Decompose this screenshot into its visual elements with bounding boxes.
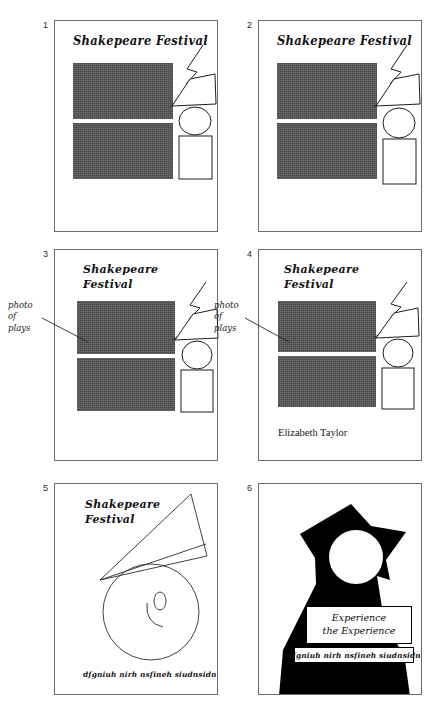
tagline: dfgniuh nirh nsfineh siudnsidn <box>287 651 420 660</box>
photo-block-bottom <box>277 123 377 179</box>
hat-icon <box>175 309 218 340</box>
photo-block-bottom <box>73 123 173 179</box>
storyboard-sheet: 1 Shakepeare Festival 2 Shakepeare Festi… <box>0 0 439 715</box>
hat-icon <box>376 74 420 106</box>
panel-6[interactable]: Experience the Experience dfgniuh nirh n… <box>258 483 422 695</box>
panel-number-1: 1 <box>43 21 48 30</box>
head-icon <box>383 339 413 367</box>
callout-label: photo of plays <box>8 300 33 334</box>
panel-3[interactable]: Shakepeare Festival <box>54 249 218 461</box>
poster-title: Shakepeare Festival <box>284 263 359 292</box>
headline-text: Experience the Experience <box>323 612 396 638</box>
head-icon <box>182 341 212 369</box>
panel-number-6: 6 <box>247 484 252 493</box>
headline-box: Experience the Experience <box>306 606 412 644</box>
actor-figure <box>167 41 222 181</box>
callout-leader-line <box>40 310 110 350</box>
hat-icon <box>376 308 419 338</box>
actor-figure <box>371 41 426 186</box>
panel-number-4: 4 <box>247 250 252 259</box>
eye-icon <box>154 592 166 610</box>
body-icon <box>382 368 414 409</box>
panel-5[interactable]: Shakepeare Festival dfgniuh nirh nsfineh… <box>54 483 218 695</box>
panel-4[interactable]: Shakepeare Festival Elizabeth Taylor <box>258 249 422 461</box>
photo-block-top <box>73 63 173 119</box>
callout-leader-line <box>243 310 313 350</box>
actor-figure <box>371 278 426 410</box>
panel-number-2: 2 <box>247 21 252 30</box>
sketch-art <box>55 484 219 696</box>
body-icon <box>181 370 213 412</box>
head-icon <box>383 108 415 138</box>
poster-title: Shakepeare Festival <box>83 263 158 292</box>
tagline-box: dfgniuh nirh nsfineh siudnsidn <box>294 647 414 663</box>
hat-icon <box>172 74 216 106</box>
head-circle-icon <box>329 530 383 584</box>
panel-number-3: 3 <box>43 250 48 259</box>
callout-label: photo of plays <box>214 300 239 334</box>
head-icon <box>179 107 211 135</box>
body-icon <box>179 136 212 179</box>
panel-2[interactable]: Shakepeare Festival <box>258 20 422 232</box>
silhouette-art <box>259 484 422 695</box>
panel-number-5: 5 <box>43 484 48 493</box>
actor-figure <box>170 278 225 413</box>
hat-triangle-icon <box>100 494 207 580</box>
photo-block-bottom <box>77 358 175 411</box>
panel-1[interactable]: Shakepeare Festival <box>54 20 218 232</box>
brim-line-icon <box>100 544 206 580</box>
photo-block-bottom <box>278 356 376 407</box>
credit-line: Elizabeth Taylor <box>278 427 347 438</box>
photo-block-top <box>277 63 377 119</box>
body-icon <box>383 139 416 184</box>
tagline: dfgniuh nirh nsfineh siudnsidn <box>83 670 216 679</box>
head-circle-icon <box>103 564 199 660</box>
